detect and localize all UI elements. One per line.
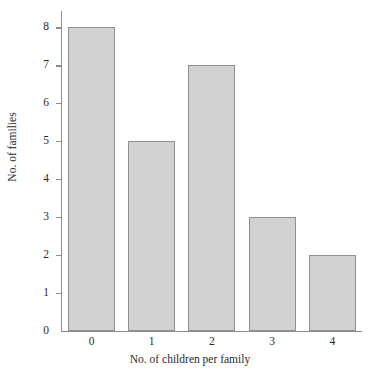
x-tick-label-2: 2 bbox=[192, 334, 232, 348]
y-tick-label: 7 bbox=[35, 59, 49, 71]
y-tick-label: 6 bbox=[35, 97, 49, 109]
y-tick-label: 1 bbox=[35, 287, 49, 299]
bar-3 bbox=[249, 217, 296, 331]
y-axis-line bbox=[61, 11, 62, 332]
bar-0 bbox=[68, 27, 115, 331]
y-tick-mark bbox=[56, 27, 62, 28]
x-tick-label-3: 3 bbox=[252, 334, 292, 348]
y-tick-label: 3 bbox=[35, 211, 49, 223]
bar-2 bbox=[188, 65, 235, 331]
y-tick-label: 0 bbox=[35, 325, 49, 337]
y-tick-mark bbox=[56, 65, 62, 66]
bar-chart-plot-area: 012345678 01234 No. of children per fami… bbox=[0, 0, 380, 381]
x-tick-label-4: 4 bbox=[312, 334, 352, 348]
y-tick-mark bbox=[56, 255, 62, 256]
y-tick-mark bbox=[56, 179, 62, 180]
y-tick-label: 5 bbox=[35, 135, 49, 147]
y-tick-label: 8 bbox=[35, 21, 49, 33]
x-tick-label-1: 1 bbox=[132, 334, 172, 348]
x-tick-label-0: 0 bbox=[72, 334, 112, 348]
y-tick-mark bbox=[56, 103, 62, 104]
y-axis-title: No. of families bbox=[5, 92, 19, 202]
y-tick-mark bbox=[56, 293, 62, 294]
x-axis-title: No. of children per family bbox=[0, 352, 380, 366]
y-tick-mark bbox=[56, 217, 62, 218]
y-tick-label: 4 bbox=[35, 173, 49, 185]
chart-page: 012345678 01234 No. of children per fami… bbox=[0, 0, 380, 381]
y-tick-mark bbox=[56, 141, 62, 142]
bar-4 bbox=[309, 255, 356, 331]
bar-1 bbox=[128, 141, 175, 331]
y-tick-label: 2 bbox=[35, 249, 49, 261]
